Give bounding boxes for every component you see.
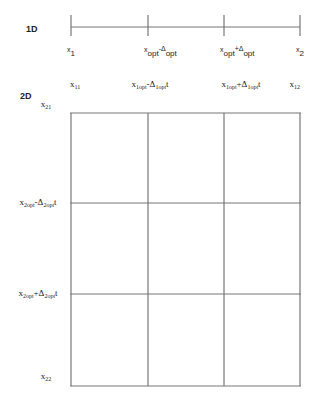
top-label-2d-3: x12 [290,79,301,90]
label-1d: 1D [26,24,38,34]
tick-label-1d-2: xopt+Δopt [220,45,255,58]
label-2d: 2D [20,91,32,101]
top-label-2d-0: x11 [70,79,80,90]
tick-label-1d-0: x1 [67,46,76,58]
left-label-2d-0: x21 [41,99,52,110]
left-label-2d-3: x22 [41,371,52,382]
top-label-2d-1: x1opt-Δ1optt [131,79,169,90]
top-label-2d-2: x1opt+Δ1optt [221,79,261,90]
left-label-2d-1: x2opt-Δ2optt [19,197,57,208]
diagram-canvas: 1D x1xopt-Δoptxopt+Δoptx2 2D x11x1opt-Δ1… [0,0,318,407]
tick-label-1d-3: x2 [296,46,305,58]
left-label-2d-2: x2opt+Δ2optt [18,288,58,299]
tick-label-1d-1: xopt-Δopt [144,45,178,58]
